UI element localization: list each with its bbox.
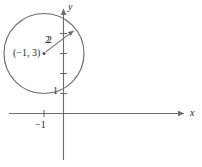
figure-canvas [0, 0, 202, 167]
math-figure: y x 2 1 −1 (−1, 3) 2 [0, 0, 202, 167]
circle-center-point [43, 52, 46, 55]
x-axis-label: x [190, 108, 194, 118]
y-tick-label-1: 1 [53, 86, 58, 96]
x-tick-label-neg1: −1 [35, 120, 46, 130]
radius-length-label: 2 [45, 35, 50, 45]
circle-center-label: (−1, 3) [13, 48, 40, 58]
y-axis-label: y [68, 2, 72, 12]
